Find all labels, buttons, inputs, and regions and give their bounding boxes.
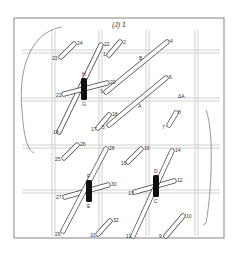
reference-label: 31	[90, 232, 96, 238]
reference-label: 30	[111, 181, 117, 187]
figure-title: (J) 1	[112, 21, 126, 29]
reference-label: 23	[52, 55, 58, 61]
patent-stitch-diagram: (J) 1 HGFEDC 123456789101112131415161718…	[0, 0, 238, 272]
clamp-DC: DC	[153, 168, 159, 204]
reference-label: 13	[128, 190, 134, 196]
reference-label: 4	[170, 38, 173, 44]
strand-7-8	[169, 113, 176, 125]
clamp-label: F	[87, 173, 90, 179]
clamp-label: H	[82, 71, 86, 77]
reference-label: 17	[91, 126, 97, 132]
reference-label: 22	[104, 41, 110, 47]
reference-label: ΔA	[178, 93, 185, 99]
reference-label: 16	[144, 145, 150, 151]
reference-label: 25	[55, 156, 61, 162]
reference-label: 5	[102, 124, 105, 130]
reference-label: 19	[53, 129, 59, 135]
reference-label: 21	[56, 92, 62, 98]
reference-label: 32	[113, 217, 119, 223]
reference-label: 6	[169, 74, 172, 80]
reference-label: 15	[121, 160, 127, 166]
reference-label: 29	[55, 231, 61, 237]
strand-15-16	[128, 149, 141, 162]
reference-label: 14	[175, 147, 181, 153]
clamp-label: C	[154, 198, 158, 204]
reference-label: A	[138, 103, 142, 109]
clamp-label: E	[87, 203, 91, 209]
diagram-canvas: (J) 1 HGFEDC 123456789101112131415161718…	[0, 0, 238, 272]
reference-label: 10	[186, 213, 192, 219]
reference-label: 20	[110, 79, 116, 85]
reference-label: 11	[126, 233, 131, 239]
reference-label: 8	[178, 109, 181, 115]
reference-label: 26	[80, 141, 86, 147]
reference-label: 27	[56, 194, 62, 200]
reference-label: 12	[177, 177, 183, 183]
reference-label: 28	[109, 145, 115, 151]
reference-label: 1	[103, 51, 106, 57]
reference-label: 2	[123, 39, 126, 45]
clamp-label: G	[82, 101, 86, 107]
reference-label: 7	[162, 124, 165, 130]
reference-label: 3	[100, 88, 103, 94]
strand-9-10	[166, 216, 183, 236]
clamp-label: D	[154, 168, 158, 174]
reference-label: 18	[112, 111, 118, 117]
right-bracket-curve	[203, 110, 211, 225]
strand-25-26	[64, 145, 77, 158]
reference-label: 24	[77, 40, 83, 46]
strand-23-24	[61, 44, 74, 57]
strands	[59, 42, 183, 236]
strand-31-32	[98, 221, 110, 234]
reference-label: 9	[159, 233, 162, 239]
figure-frame	[14, 18, 224, 238]
